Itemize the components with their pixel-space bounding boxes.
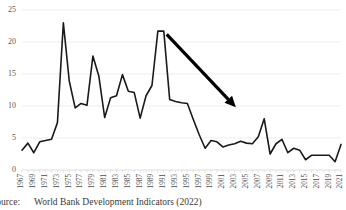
x-axis-tick-label: 1989 xyxy=(148,174,155,188)
x-axis-tick-label: 2003 xyxy=(231,174,238,188)
x-axis-tick-label: 2007 xyxy=(255,174,262,188)
x-axis-tick-label: 2013 xyxy=(290,174,297,188)
x-axis-tick-label: 1967 xyxy=(18,174,25,188)
x-axis-tick-label: 1979 xyxy=(89,174,96,188)
caption-source-label: Source: xyxy=(0,197,20,207)
x-axis-tick-label: 1987 xyxy=(137,174,144,188)
annotation-arrow xyxy=(167,34,236,107)
caption-source-text: World Bank Development Indicators (2022) xyxy=(34,197,202,207)
y-axis-tick-label: 5 xyxy=(0,133,16,142)
y-axis-tick-label: 20 xyxy=(0,37,16,46)
figure-caption: Source:World Bank Development Indicators… xyxy=(0,197,346,207)
x-axis-tick-label: 1977 xyxy=(77,174,84,188)
gridlines xyxy=(22,10,341,170)
x-axis-tick-label: 1985 xyxy=(125,174,132,188)
x-axis-tick-label: 1975 xyxy=(66,174,73,188)
x-axis-tick-label: 1997 xyxy=(196,174,203,188)
x-axis-tick-label: 2017 xyxy=(314,174,321,188)
data-series-line xyxy=(22,23,341,162)
x-axis-tick-label: 1981 xyxy=(101,174,108,188)
x-axis-tick-label: 1983 xyxy=(113,174,120,188)
x-axis-tick-label: 2011 xyxy=(278,174,285,188)
y-axis-tick-label: 10 xyxy=(0,101,16,110)
x-axis-tick-label: 1973 xyxy=(54,174,61,188)
x-axis-tick-label: 1969 xyxy=(30,174,37,188)
chart-figure: 0510152025 19671969197119731975197719791… xyxy=(0,0,346,210)
x-axis-tick-label: 2009 xyxy=(267,174,274,188)
x-axis-tick-label: 1995 xyxy=(184,174,191,188)
x-axis-tick-label: 1999 xyxy=(207,174,214,188)
y-axis-tick-label: 15 xyxy=(0,69,16,78)
x-axis-tick-label: 2001 xyxy=(219,174,226,188)
y-axis-tick-label: 0 xyxy=(0,165,16,174)
y-axis-tick-label: 25 xyxy=(0,5,16,14)
x-axis-tick-label: 1971 xyxy=(42,174,49,188)
x-axis-tick-label: 2015 xyxy=(302,174,309,188)
x-axis-tick-label: 2019 xyxy=(326,174,333,188)
x-axis-tick-label: 2021 xyxy=(337,174,344,188)
x-axis-tick-label: 1993 xyxy=(172,174,179,188)
x-axis-tick-label: 1991 xyxy=(160,174,167,188)
x-axis-tick-label: 2005 xyxy=(243,174,250,188)
